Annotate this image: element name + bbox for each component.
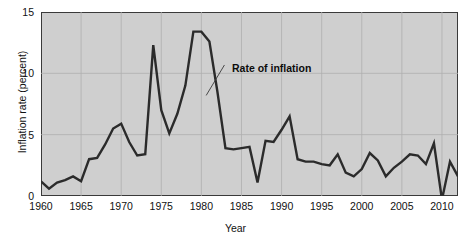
y-axis-title: Inflation rate (percent) [16,32,28,172]
x-tick-label: 2005 [382,200,422,212]
annotation-leader-line [206,65,224,95]
rate-of-inflation-annotation: Rate of inflation [232,62,311,74]
data-line-group [41,32,458,200]
data-line [41,32,458,200]
x-tick-label: 2000 [342,200,382,212]
x-tick-label: 1975 [141,200,181,212]
gridlines [41,12,458,196]
x-tick-label: 1960 [21,200,61,212]
x-tick-label: 1990 [262,200,302,212]
x-tick-label: 1985 [221,200,261,212]
inflation-rate-chart-figure: 051015 196019651970197519801985199019952… [0,0,471,242]
x-tick-label: 1980 [181,200,221,212]
x-tick-label: 1970 [101,200,141,212]
x-axis-title: Year [0,222,471,234]
x-tick-label: 2010 [422,200,462,212]
x-tick-label: 1995 [302,200,342,212]
x-tick-label: 1965 [61,200,101,212]
y-tick-label: 15 [8,6,34,18]
